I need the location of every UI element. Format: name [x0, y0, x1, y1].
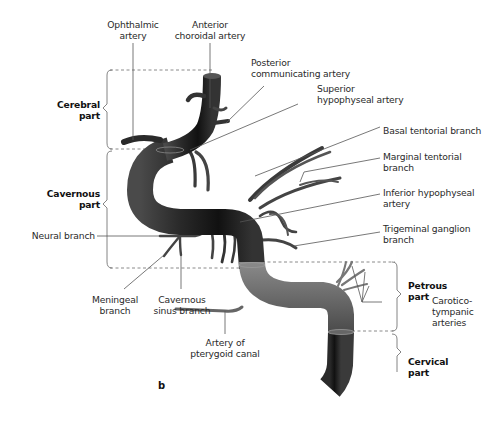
anterior-choroidal-artery-label: Anterior choroidal artery: [170, 19, 250, 41]
marginal-tentorial-branch-label: Marginal tentorial branch: [383, 151, 462, 173]
cerebral-brace: [103, 70, 112, 149]
cavernous-sinus-branch-label: Cavernous sinus branch: [150, 294, 214, 316]
ophthalmic-artery-branch: [124, 138, 160, 142]
posterior-communicating-artery-label: Posterior communicating artery: [251, 57, 350, 79]
neural-branch-label: Neural branch: [20, 230, 95, 241]
cervical-part-label: Cervical part: [408, 356, 448, 378]
caroticotympanic-arteries-label: Carotico- tympanic arteries: [432, 295, 474, 328]
petrous-segment: [252, 262, 341, 333]
cavernous-brace: [103, 151, 112, 268]
cervical-brace: [392, 334, 401, 372]
cervical-segment: [330, 332, 341, 388]
panel-letter: b: [158, 380, 165, 391]
basal-tentorial-branch-label: Basal tentorial branch: [383, 125, 481, 136]
ophthalmic-artery-label: Ophthalmic artery: [103, 19, 163, 41]
trigeminal-ganglion-branch-label: Trigeminal ganglion branch: [383, 223, 470, 245]
superior-hypophyseal-artery-label: Superior hypophyseal artery: [317, 83, 404, 105]
petrous-brace: [392, 262, 401, 331]
cerebral-part-label: Cerebral part: [48, 99, 100, 121]
meningeal-branch-label: Meningeal branch: [85, 294, 145, 316]
cerebral-segment: [165, 76, 212, 152]
artery-of-pterygoid-canal-label: Artery of pterygoid canal: [185, 337, 265, 359]
inferior-hypophyseal-artery-label: Inferior hypophyseal artery: [383, 187, 475, 209]
internal-carotid-artery-diagram: Cerebral part Cavernous part Petrous par…: [0, 0, 504, 424]
anterior-choroidal-branch: [188, 95, 204, 100]
cavernous-part-label: Cavernous part: [40, 188, 100, 210]
